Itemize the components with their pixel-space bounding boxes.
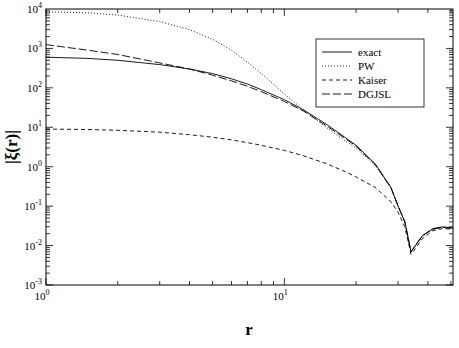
y-tick-label: 10-3	[24, 277, 42, 291]
chart: 100101 10-310-210-1100101102103104 r |ξ(…	[0, 0, 459, 348]
y-tick-label: 10-1	[24, 198, 42, 212]
x-tick-label: 100	[35, 288, 50, 302]
legend: exactPWKaiserDGJSL	[316, 39, 424, 107]
legend-label-exact: exact	[358, 46, 381, 58]
x-tick-label: 101	[273, 288, 288, 302]
x-axis-title: r	[245, 320, 253, 339]
y-tick-label: 100	[27, 159, 42, 173]
y-tick-label: 104	[27, 1, 42, 15]
legend-label-dgjsl: DGJSL	[358, 88, 391, 100]
legend-label-pw: PW	[358, 60, 375, 72]
legend-label-kaiser: Kaiser	[358, 74, 387, 86]
y-tick-label: 102	[27, 80, 42, 94]
y-tick-label: 103	[27, 40, 42, 54]
y-axis-title: |ξ(r)|	[2, 130, 21, 164]
y-tick-label: 101	[27, 119, 42, 133]
y-tick-label: 10-2	[24, 238, 42, 252]
